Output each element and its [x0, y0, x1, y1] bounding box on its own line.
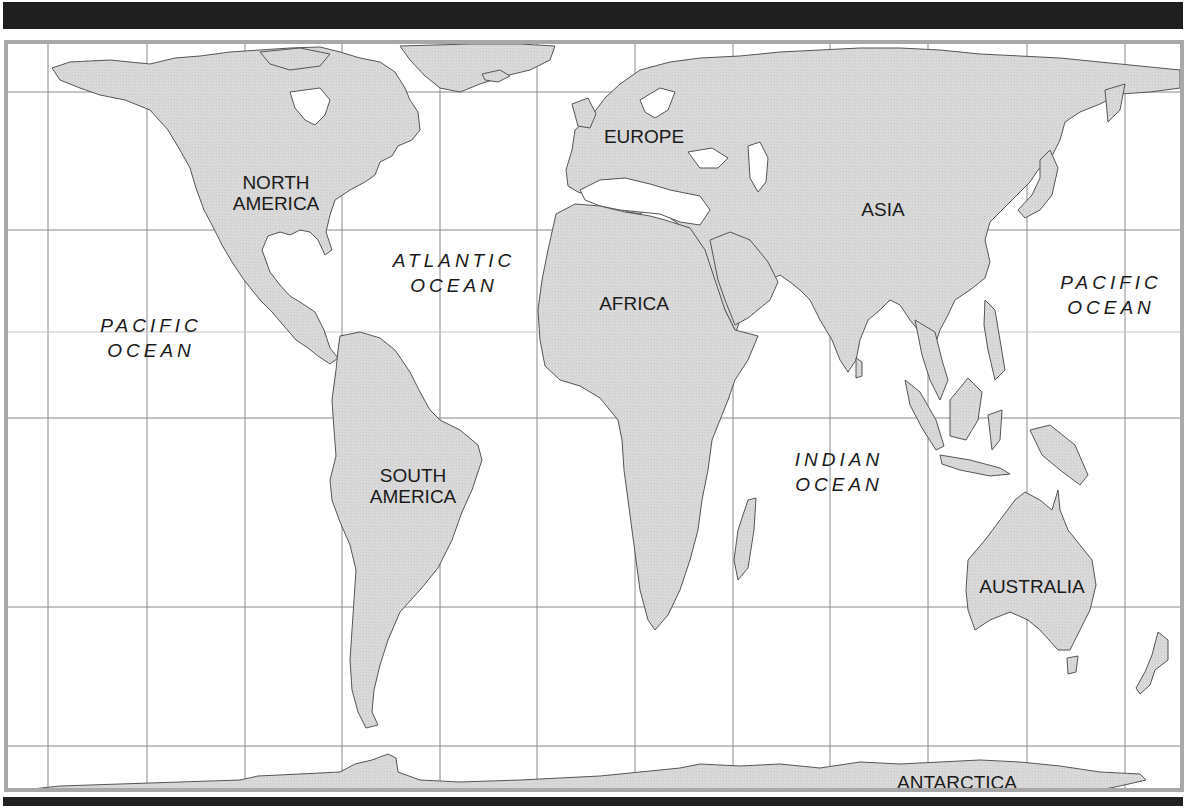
- label-north-america: NORTH AMERICA: [233, 173, 320, 215]
- label-pacific-ocean-west: PACIFIC OCEAN: [100, 314, 202, 363]
- map-canvas: [4, 40, 1184, 792]
- label-south-america: SOUTH AMERICA: [370, 466, 457, 508]
- label-europe: EUROPE: [604, 127, 684, 148]
- label-asia: ASIA: [861, 200, 904, 221]
- new-zealand-shape: [1136, 632, 1168, 694]
- label-antarctica: ANTARCTICA: [897, 773, 1017, 792]
- label-pacific-ocean-east: PACIFIC OCEAN: [1060, 271, 1162, 320]
- south-america-shape: [330, 332, 482, 728]
- label-indian-ocean: INDIAN OCEAN: [795, 448, 883, 497]
- label-africa: AFRICA: [599, 294, 669, 315]
- label-australia: AUSTRALIA: [979, 577, 1085, 598]
- australia-shape: [966, 490, 1096, 650]
- madagascar-shape: [734, 498, 756, 580]
- label-atlantic-ocean: ATLANTIC OCEAN: [393, 249, 515, 298]
- new-guinea-shape: [1030, 425, 1088, 485]
- top-dark-bar: [3, 2, 1183, 29]
- bottom-dark-bar: [3, 797, 1183, 806]
- greenland-shape: [400, 44, 555, 92]
- world-map: NORTH AMERICA SOUTH AMERICA EUROPE ASIA …: [4, 40, 1184, 792]
